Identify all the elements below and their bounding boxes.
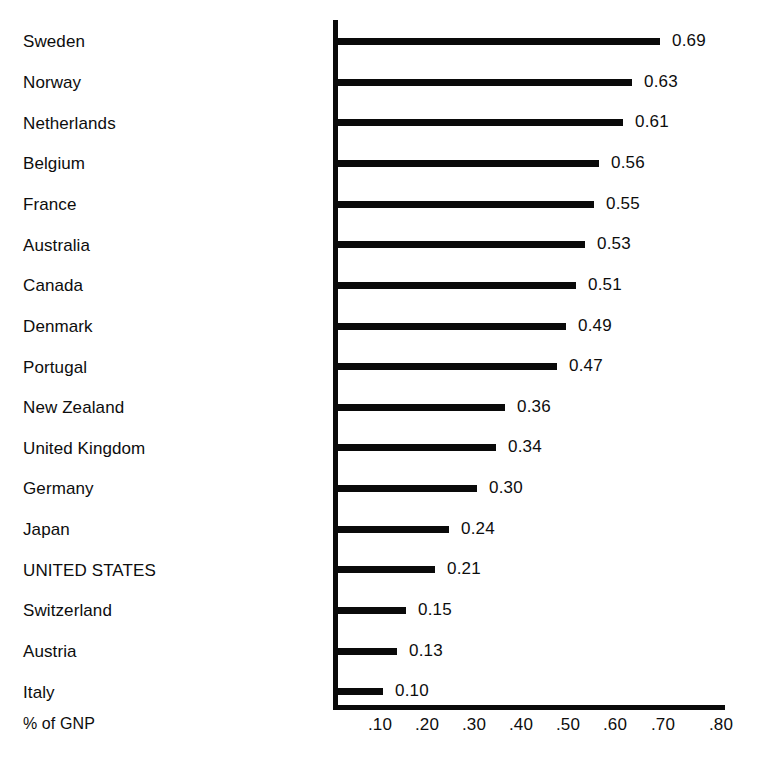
bar-value-label: 0.55 bbox=[606, 195, 640, 212]
bar bbox=[336, 160, 599, 167]
x-tick-label: .70 bbox=[651, 716, 675, 734]
category-label: New Zealand bbox=[23, 399, 124, 417]
bar-value-label: 0.53 bbox=[597, 235, 631, 252]
category-label: UNITED STATES bbox=[23, 562, 156, 580]
bar-value-label: 0.51 bbox=[588, 276, 622, 293]
category-label: United Kingdom bbox=[23, 440, 145, 458]
bar bbox=[336, 119, 623, 126]
bar-value-label: 0.10 bbox=[395, 682, 429, 699]
bar-value-label: 0.47 bbox=[569, 357, 603, 374]
category-label: Japan bbox=[23, 521, 70, 539]
bar bbox=[336, 485, 477, 492]
x-tick-label: .50 bbox=[556, 716, 580, 734]
bar-value-label: 0.69 bbox=[672, 32, 706, 49]
bar bbox=[336, 282, 576, 289]
category-label: Canada bbox=[23, 277, 83, 295]
category-label: Australia bbox=[23, 237, 90, 255]
bar bbox=[336, 607, 406, 614]
bar bbox=[336, 201, 594, 208]
bar-value-label: 0.24 bbox=[461, 520, 495, 537]
bar-value-label: 0.49 bbox=[578, 317, 612, 334]
category-label: Denmark bbox=[23, 318, 93, 336]
x-tick-label: .10 bbox=[368, 716, 392, 734]
bar-chart: Sweden Norway Netherlands Belgium France… bbox=[0, 0, 758, 764]
bar bbox=[336, 648, 397, 655]
x-axis-line bbox=[333, 705, 725, 710]
bar bbox=[336, 566, 435, 573]
category-label: Switzerland bbox=[23, 602, 112, 620]
bar bbox=[336, 79, 632, 86]
x-tick-label: .40 bbox=[509, 716, 533, 734]
bar bbox=[336, 363, 557, 370]
category-label: Netherlands bbox=[23, 115, 116, 133]
x-axis-caption: % of GNP bbox=[23, 715, 95, 733]
bar bbox=[336, 444, 496, 451]
bar-value-label: 0.63 bbox=[644, 73, 678, 90]
category-label: Belgium bbox=[23, 155, 85, 173]
bar-value-label: 0.36 bbox=[517, 398, 551, 415]
x-tick-label: .60 bbox=[603, 716, 627, 734]
category-label: Portugal bbox=[23, 359, 87, 377]
x-tick-label: .80 bbox=[709, 716, 733, 734]
bar bbox=[336, 38, 660, 45]
bar-value-label: 0.30 bbox=[489, 479, 523, 496]
bar-value-label: 0.13 bbox=[409, 642, 443, 659]
bar-value-label: 0.56 bbox=[611, 154, 645, 171]
bar-value-label: 0.61 bbox=[635, 113, 669, 130]
bar bbox=[336, 241, 585, 248]
x-tick-label: .30 bbox=[462, 716, 486, 734]
category-label: Austria bbox=[23, 643, 77, 661]
bar-value-label: 0.21 bbox=[447, 560, 481, 577]
bar-value-label: 0.34 bbox=[508, 438, 542, 455]
bar bbox=[336, 526, 449, 533]
bar-value-label: 0.15 bbox=[418, 601, 452, 618]
x-tick-label: .20 bbox=[415, 716, 439, 734]
category-label: France bbox=[23, 196, 77, 214]
category-label: Sweden bbox=[23, 33, 85, 51]
bar bbox=[336, 404, 505, 411]
category-label: Germany bbox=[23, 480, 94, 498]
category-label: Norway bbox=[23, 74, 81, 92]
bar bbox=[336, 688, 383, 695]
bar bbox=[336, 323, 566, 330]
category-label: Italy bbox=[23, 684, 55, 702]
